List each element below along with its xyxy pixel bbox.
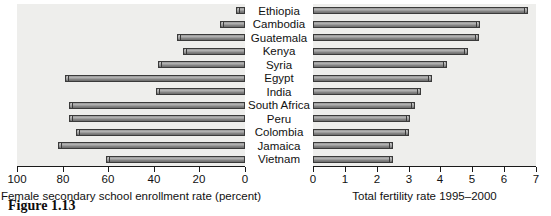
- right-chart-axis-tick: [504, 167, 505, 172]
- right-chart-axis-line: [313, 166, 536, 167]
- right-chart-axis-tick: [409, 167, 410, 172]
- bar-end-cap: [406, 115, 410, 122]
- right-chart-bar: [313, 115, 410, 122]
- right-chart-bar: [313, 102, 415, 109]
- left-chart-bar: [106, 156, 245, 163]
- left-chart-axis-tick-label: 80: [43, 173, 83, 185]
- country-label: Syria: [246, 59, 312, 71]
- left-chart-bar: [183, 48, 245, 55]
- right-chart-bar: [313, 156, 393, 163]
- left-chart-axis-tick-label: 20: [179, 173, 219, 185]
- right-chart-bar: [313, 48, 468, 55]
- left-chart-axis-tick: [63, 167, 64, 172]
- country-label: Cambodia: [246, 18, 312, 30]
- country-label: Guatemala: [246, 32, 312, 44]
- country-label: India: [246, 86, 312, 98]
- country-label: South Africa: [246, 99, 312, 111]
- left-chart-bar: [236, 7, 245, 14]
- country-label: Egypt: [246, 72, 312, 84]
- bar-end-cap: [236, 7, 240, 14]
- left-chart-bar: [65, 75, 245, 82]
- country-label: Colombia: [246, 126, 312, 138]
- left-chart-bar: [156, 88, 245, 95]
- bar-end-cap: [405, 129, 409, 136]
- left-chart-bar: [69, 102, 245, 109]
- right-chart-axis-tick: [313, 167, 314, 172]
- figure-container: 100806040200 01234567 Female secondary s…: [0, 0, 551, 216]
- right-chart-bar: [313, 21, 480, 28]
- bar-end-cap: [389, 142, 393, 149]
- bar-end-cap: [158, 61, 162, 68]
- left-chart-axis-line: [17, 166, 245, 167]
- left-chart-axis-tick-label: 40: [134, 173, 174, 185]
- right-chart-x-axis-label: Total fertility rate 1995–2000: [275, 190, 551, 203]
- left-chart-axis-tick-label: 60: [88, 173, 128, 185]
- country-label-column: EthiopiaCambodiaGuatemalaKenyaSyriaEgypt…: [246, 4, 312, 166]
- right-chart-bar: [313, 75, 432, 82]
- right-chart-axis-tick: [536, 167, 537, 172]
- right-chart-bar: [313, 88, 421, 95]
- bar-end-cap: [69, 115, 73, 122]
- bar-end-cap: [177, 34, 181, 41]
- left-chart-axis-tick: [17, 167, 18, 172]
- bar-end-cap: [58, 142, 62, 149]
- left-chart-bar: [76, 129, 245, 136]
- bar-end-cap: [524, 7, 528, 14]
- bar-end-cap: [106, 156, 110, 163]
- right-chart-bar: [313, 34, 479, 41]
- bar-end-cap: [476, 21, 480, 28]
- left-chart-axis-tick-label: 0: [225, 173, 265, 185]
- bar-end-cap: [475, 34, 479, 41]
- country-label: Vietnam: [246, 153, 312, 165]
- bar-end-cap: [156, 88, 160, 95]
- country-label: Peru: [246, 113, 312, 125]
- right-chart-axis-tick-label: 7: [516, 173, 551, 185]
- left-chart-axis-tick: [154, 167, 155, 172]
- country-label: Kenya: [246, 45, 312, 57]
- right-chart-axis-tick: [377, 167, 378, 172]
- bar-end-cap: [464, 48, 468, 55]
- left-chart-bar: [158, 61, 245, 68]
- left-chart-axis-tick: [199, 167, 200, 172]
- right-chart-axis-tick: [440, 167, 441, 172]
- left-chart-axis-tick: [245, 167, 246, 172]
- right-chart-axis-tick: [472, 167, 473, 172]
- left-chart-bar: [220, 21, 245, 28]
- left-chart-bar: [69, 115, 245, 122]
- left-chart-axis-tick: [108, 167, 109, 172]
- country-label: Jamaica: [246, 140, 312, 152]
- right-chart-bar: [313, 129, 409, 136]
- left-chart-bar: [58, 142, 245, 149]
- bar-end-cap: [411, 102, 415, 109]
- bar-end-cap: [183, 48, 187, 55]
- right-chart-bar: [313, 7, 528, 14]
- right-chart-axis-tick: [345, 167, 346, 172]
- bar-end-cap: [65, 75, 69, 82]
- bar-end-cap: [220, 21, 224, 28]
- bar-end-cap: [443, 61, 447, 68]
- country-label: Ethiopia: [246, 5, 312, 17]
- bar-end-cap: [76, 129, 80, 136]
- bar-end-cap: [69, 102, 73, 109]
- bar-end-cap: [389, 156, 393, 163]
- bar-end-cap: [417, 88, 421, 95]
- bar-end-cap: [428, 75, 432, 82]
- figure-caption: Figure 1.13: [8, 198, 75, 214]
- right-chart-bar: [313, 61, 447, 68]
- left-chart-bar: [177, 34, 245, 41]
- left-chart-axis-tick-label: 100: [0, 173, 37, 185]
- right-chart-bar: [313, 142, 393, 149]
